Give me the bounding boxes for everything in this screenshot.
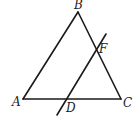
label-d: D (65, 101, 76, 115)
label-f: F (98, 42, 108, 56)
side-ab (23, 12, 78, 99)
label-b: B (73, 0, 83, 12)
label-c: C (123, 96, 132, 110)
label-a: A (11, 95, 21, 109)
geometry-diagram: A B C D F (0, 0, 137, 123)
